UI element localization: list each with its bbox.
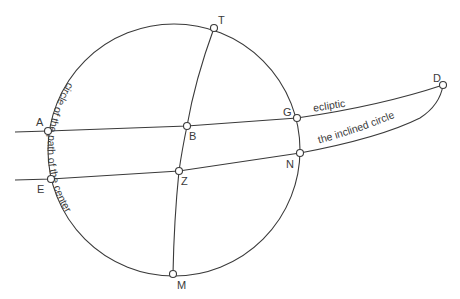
label-D: D [433, 72, 441, 84]
point-T [211, 25, 218, 32]
point-G [294, 115, 301, 122]
point-A [45, 128, 52, 135]
label-N: N [286, 158, 294, 170]
inclined-circle-label: the inclined circle [316, 108, 395, 145]
point-M [170, 271, 177, 278]
label-T: T [218, 14, 225, 26]
inclined-circle-line [15, 85, 443, 180]
epicycle-diagram: circle of the path of the center eclipti… [0, 0, 460, 299]
point-N [297, 150, 304, 157]
point-B [184, 123, 191, 130]
meridian-line [173, 28, 214, 274]
label-M: M [177, 279, 186, 291]
point-E [48, 176, 55, 183]
label-Z: Z [181, 175, 188, 187]
center-path-label: circle of the path of the center [46, 81, 77, 215]
point-Z [176, 168, 183, 175]
label-A: A [36, 116, 44, 128]
label-G: G [283, 106, 292, 118]
label-B: B [189, 130, 196, 142]
label-E: E [37, 183, 44, 195]
